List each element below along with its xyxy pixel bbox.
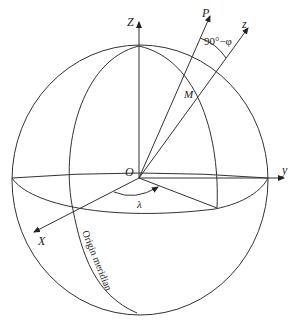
lambda-label: λ [136, 198, 142, 210]
x-axis [34, 178, 139, 232]
z-local-label: z [241, 17, 247, 31]
p-axis [139, 16, 210, 178]
sphere-outline [12, 45, 268, 315]
z-local-axis [139, 28, 248, 178]
x-axis-label: X [37, 234, 46, 248]
y-axis-label: y [281, 163, 288, 177]
point-m-label: M [183, 88, 194, 100]
meridian-label: Origin meridian [80, 229, 114, 293]
z-axis-label: Z [127, 15, 134, 29]
angle-label: 90°−φ [204, 35, 232, 47]
projection-line [139, 178, 217, 208]
sphere-diagram: Z P z 90°−φ M O y X λ Origin meridian [0, 0, 298, 321]
meridian-m [139, 46, 217, 208]
p-axis-label: P [201, 6, 210, 20]
origin-label: O [125, 165, 134, 179]
lambda-arc [114, 187, 158, 196]
